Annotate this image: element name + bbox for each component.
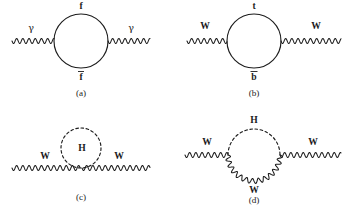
panel-b-label-antibottom-quark: b [251,71,256,82]
panel-d-w-boson-arc [226,155,282,183]
panel-a-caption: (a) [76,88,86,98]
panel-d: W W H W (d) [185,114,341,205]
panel-b-caption: (b) [249,88,260,98]
panel-b-external-line-left [187,39,227,44]
panel-a-external-line-left [12,39,54,44]
panel-c-label-w-left: W [40,150,50,161]
panel-b-external-line-right [281,39,341,44]
panel-a: γ γ f f (a) [12,0,150,98]
panel-d-external-line-right [280,153,341,158]
panel-d-label-w-loop: W [249,184,259,195]
panel-c-external-line-left [12,166,80,171]
panel-d-label-w-right: W [308,136,318,147]
panel-b: W W t b (b) [187,0,341,98]
panel-d-label-higgs: H [250,114,258,125]
panel-b-label-top-quark: t [252,0,256,11]
panel-c-caption: (c) [76,192,86,202]
panel-c-label-higgs: H [78,142,86,153]
panel-c-label-w-right: W [114,150,124,161]
panel-b-quark-loop [227,14,281,68]
panel-a-label-fermion-top: f [79,0,83,11]
panel-a-label-antifermion-bottom: f [79,71,83,82]
panel-b-label-w-left: W [200,20,210,31]
panel-b-label-w-right: W [311,20,321,31]
panel-d-higgs-arc [228,129,280,155]
panel-a-label-photon-left: γ [28,22,34,33]
panel-d-caption: (d) [249,195,260,205]
panel-d-external-line-left [185,153,228,158]
diagram-canvas: γ γ f f (a) W W t b (b) W W H (c) [0,0,353,211]
panel-d-label-w-left: W [202,136,212,147]
panel-a-external-line-right [108,39,150,44]
feynman-diagram-figure: γ γ f f (a) W W t b (b) W W H (c) [0,0,353,211]
panel-c: W W H (c) [12,128,150,202]
panel-c-external-line-right [82,166,150,171]
panel-a-label-photon-right: γ [128,22,134,33]
panel-a-fermion-loop [54,14,108,68]
